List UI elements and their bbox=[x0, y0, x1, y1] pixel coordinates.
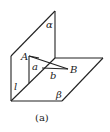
beta-right-edge bbox=[62, 58, 103, 101]
label-alpha: α bbox=[46, 19, 53, 30]
figure-caption: (a) bbox=[35, 112, 49, 123]
label-l: l bbox=[14, 81, 17, 92]
label-a: a bbox=[32, 61, 38, 72]
alpha-top-edge bbox=[11, 11, 55, 56]
label-b: b bbox=[50, 70, 56, 81]
label-A: A bbox=[20, 51, 28, 62]
label-B: B bbox=[69, 64, 77, 75]
dihedral-angle-diagram: α β l A B a b (a) bbox=[0, 0, 110, 132]
label-beta: β bbox=[55, 89, 62, 100]
